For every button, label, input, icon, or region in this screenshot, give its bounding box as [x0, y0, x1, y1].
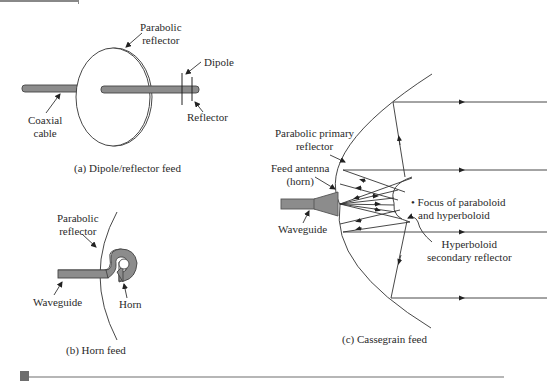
label-line: and hyperboloid — [411, 209, 506, 222]
label-line: reflector — [275, 140, 354, 153]
label-focus: • Focus of paraboloid and hyperboloid — [411, 196, 506, 222]
diagram-canvas — [0, 0, 547, 388]
label-line: Coaxial — [28, 114, 62, 127]
label-parabolic-reflector-b: Parabolic reflector — [57, 212, 99, 238]
label-line: Parabolic primary — [275, 127, 354, 140]
label-line: Parabolic — [140, 21, 182, 34]
label-line: cable — [28, 127, 62, 140]
label-line: Feed antenna — [271, 162, 329, 175]
label-waveguide-b: Waveguide — [33, 296, 82, 309]
label-line: reflector — [140, 34, 182, 47]
caption-horn-feed: (b) Horn feed — [66, 344, 126, 356]
label-dipole: Dipole — [204, 56, 234, 69]
label-horn: Horn — [119, 298, 142, 311]
label-parabolic-primary-reflector: Parabolic primary reflector — [275, 127, 354, 153]
label-line: secondary reflector — [427, 251, 512, 264]
label-waveguide-c: Waveguide — [278, 223, 327, 236]
top-rule — [0, 0, 79, 4]
label-feed-antenna: Feed antenna (horn) — [271, 162, 329, 188]
label-reflector: Reflector — [187, 111, 228, 124]
label-hyperboloid-secondary: Hyperboloid secondary reflector — [427, 238, 512, 264]
caption-dipole-feed: (a) Dipole/reflector feed — [74, 162, 181, 174]
label-line: Parabolic — [57, 212, 99, 225]
label-line: Hyperboloid — [427, 238, 512, 251]
bottom-rule — [20, 371, 504, 381]
label-line: (horn) — [271, 175, 329, 188]
label-parabolic-reflector-a: Parabolic reflector — [140, 21, 182, 47]
label-coaxial-cable: Coaxial cable — [28, 114, 62, 140]
caption-cassegrain-feed: (c) Cassegrain feed — [342, 333, 427, 345]
label-line: • Focus of paraboloid — [411, 196, 506, 209]
label-line: reflector — [57, 225, 99, 238]
